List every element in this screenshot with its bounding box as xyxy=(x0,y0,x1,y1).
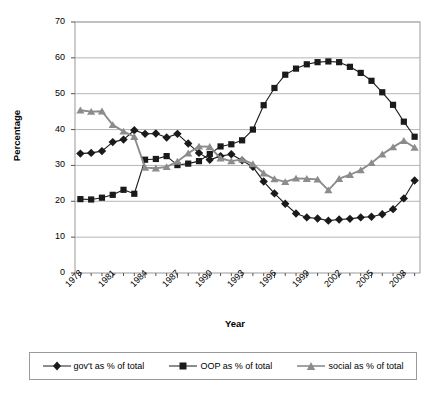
y-axis-tick-label: 0 xyxy=(43,268,65,277)
chart-legend: gov't as % of total OOP as % of total so… xyxy=(29,352,417,380)
y-axis-tick-label: 40 xyxy=(43,125,65,134)
y-axis-tick-label: 70 xyxy=(43,17,65,26)
legend-item-gov: gov't as % of total xyxy=(43,360,145,372)
legend-square-icon xyxy=(169,360,197,372)
legend-triangle-icon xyxy=(297,360,325,372)
legend-item-social: social as % of total xyxy=(297,360,403,372)
x-axis-title: Year xyxy=(175,318,295,329)
legend-label-oop: OOP as % of total xyxy=(200,361,272,371)
y-axis-tick-label: 20 xyxy=(43,196,65,205)
y-axis-tick-label: 30 xyxy=(43,160,65,169)
chart-container: Percentage Year 010203040506070 19781981… xyxy=(0,0,446,399)
legend-label-social: social as % of total xyxy=(328,361,403,371)
legend-diamond-icon xyxy=(43,360,71,372)
y-axis-tick-label: 10 xyxy=(43,232,65,241)
y-axis-tick-label: 60 xyxy=(43,53,65,62)
legend-label-gov: gov't as % of total xyxy=(74,361,145,371)
y-axis-tick-label: 50 xyxy=(43,89,65,98)
plot-area xyxy=(0,0,446,300)
legend-item-oop: OOP as % of total xyxy=(169,360,272,372)
